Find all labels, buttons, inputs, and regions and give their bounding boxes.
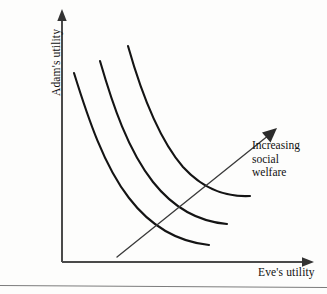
arrow-head-icon [57, 9, 66, 21]
indifference-curve-1 [74, 73, 209, 245]
x-axis-label: Eve's utility [258, 266, 315, 278]
welfare-annotation-line-2: social [252, 153, 300, 167]
y-axis-label: Adam's utility [50, 29, 62, 96]
indifference-curve-2 [100, 61, 227, 224]
welfare-annotation-line-3: welfare [252, 166, 300, 180]
figure-container: Adam's utility Eve's utility Increasing … [0, 0, 327, 294]
welfare-annotation-line-1: Increasing [252, 139, 300, 153]
welfare-annotation: Increasing social welfare [252, 139, 300, 180]
page-rule [0, 286, 327, 288]
